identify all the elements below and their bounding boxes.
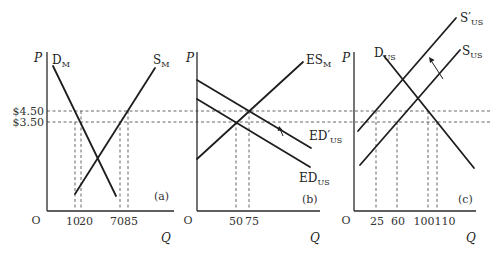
- q-tick-25: 25: [370, 215, 384, 228]
- supply-curve-us: [360, 50, 460, 165]
- supply-label-m: SM: [153, 53, 169, 69]
- import-demand-label: EDUS: [299, 171, 330, 187]
- supply-curve-us-shifted: [358, 18, 456, 131]
- q-tick-85: 85: [124, 215, 138, 228]
- arrowhead-icon: [429, 57, 435, 63]
- q-axis-label-c: Q: [466, 231, 476, 245]
- panel-b: P O Q ESM ED′US EDUS (b) 50 75: [183, 51, 342, 245]
- demand-label-us: DUS: [374, 46, 396, 62]
- export-supply-curve-m: [197, 62, 303, 159]
- trade-equilibrium-diagram: $4.50 $3.50 P O Q DM SM (a) 10 20 70 85 …: [0, 0, 490, 256]
- q-axis-label-a: Q: [161, 231, 171, 245]
- p-axis-label-b: P: [185, 51, 195, 65]
- panel-tag-a: (a): [154, 190, 169, 203]
- origin-label-b: O: [183, 214, 192, 227]
- import-demand-shifted-label: ED′US: [309, 129, 342, 145]
- q-tick-60: 60: [391, 215, 405, 228]
- supply-label-us: SUS: [462, 44, 482, 60]
- q-tick-70: 70: [110, 215, 124, 228]
- q-tick-50: 50: [229, 215, 243, 228]
- origin-label-a: O: [31, 214, 40, 227]
- panel-c: P O Q DUS S′US SUS (c) 25 60 100 110: [341, 11, 483, 245]
- supply-shifted-label-us: S′US: [460, 11, 483, 27]
- q-axis-label-b: Q: [310, 231, 320, 245]
- import-demand-curve-us-shifted: [197, 80, 311, 148]
- demand-curve-us: [384, 56, 474, 168]
- export-supply-label: ESM: [306, 53, 331, 69]
- panel-tag-b: (b): [302, 193, 318, 206]
- p-axis-label-c: P: [341, 51, 351, 65]
- import-demand-curve-us: [197, 99, 310, 167]
- q-tick-10: 10: [66, 215, 80, 228]
- q-tick-110: 110: [435, 215, 456, 228]
- panel-a: P O Q DM SM (a) 10 20 70 85: [31, 51, 174, 245]
- origin-label-c: O: [341, 214, 350, 227]
- demand-curve-m: [53, 66, 116, 196]
- p-axis-label-a: P: [33, 51, 43, 65]
- supply-curve-m: [75, 68, 155, 194]
- price-label-3-50: $3.50: [13, 116, 45, 129]
- q-tick-75: 75: [245, 215, 259, 228]
- panel-tag-c: (c): [458, 193, 473, 206]
- demand-label-m: DM: [52, 53, 70, 69]
- q-tick-100: 100: [414, 215, 435, 228]
- q-tick-20: 20: [79, 215, 93, 228]
